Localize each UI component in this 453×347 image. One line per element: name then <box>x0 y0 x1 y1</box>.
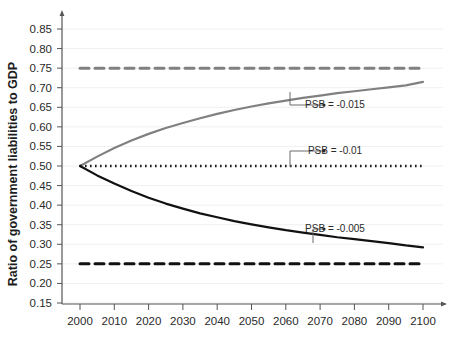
y-tick-label: 0.70 <box>30 82 52 94</box>
x-tick-label: 2000 <box>67 315 93 327</box>
y-tick-label: 0.20 <box>30 277 52 289</box>
y-tick-labels: 0.150.200.250.300.350.400.450.500.550.60… <box>30 23 52 309</box>
y-tick-label: 0.45 <box>30 180 52 192</box>
y-tick-label: 0.80 <box>30 43 52 55</box>
x-tick-label: 2060 <box>273 315 299 327</box>
chart-background <box>0 0 453 347</box>
y-tick-label: 0.40 <box>30 199 52 211</box>
y-tick-label: 0.30 <box>30 238 52 250</box>
x-tick-label: 2040 <box>204 315 230 327</box>
y-tick-label: 0.75 <box>30 62 52 74</box>
y-axis-title: Ratio of government liabilities to GDP <box>6 62 20 286</box>
y-tick-label: 0.85 <box>30 23 52 35</box>
x-tick-label: 2020 <box>136 315 162 327</box>
y-tick-label: 0.35 <box>30 219 52 231</box>
x-tick-label: 2010 <box>102 315 128 327</box>
x-tick-label: 2090 <box>376 315 402 327</box>
y-tick-label: 0.60 <box>30 121 52 133</box>
y-tick-label: 0.25 <box>30 258 52 270</box>
x-tick-label: 2100 <box>410 315 436 327</box>
x-tick-label: 2070 <box>307 315 333 327</box>
annotation-label: PSB = -0.005 <box>305 223 365 234</box>
chart-container: 0.150.200.250.300.350.400.450.500.550.60… <box>0 0 453 347</box>
annotation-label: PSB = -0.015 <box>305 99 365 110</box>
y-tick-label: 0.50 <box>30 160 52 172</box>
y-tick-label: 0.55 <box>30 140 52 152</box>
y-tick-label: 0.15 <box>30 297 52 309</box>
x-tick-labels: 2000201020202030204020502060207020802090… <box>67 315 436 327</box>
x-tick-label: 2080 <box>342 315 368 327</box>
y-tick-label: 0.65 <box>30 101 52 113</box>
ratio-of-government-liabilities-chart: 0.150.200.250.300.350.400.450.500.550.60… <box>0 0 453 347</box>
x-tick-label: 2050 <box>239 315 265 327</box>
annotation-label: PSB = -0.01 <box>308 145 363 156</box>
x-tick-label: 2030 <box>170 315 196 327</box>
